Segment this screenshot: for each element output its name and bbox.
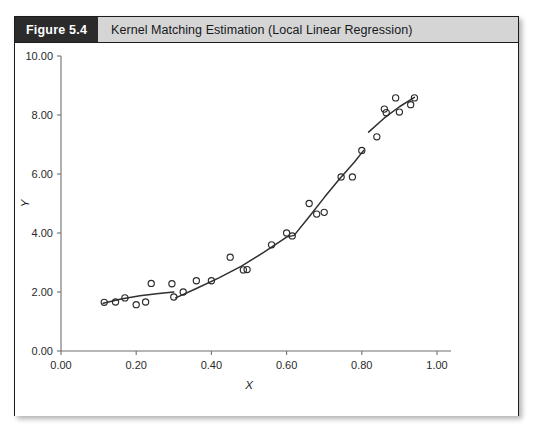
data-point <box>133 302 139 308</box>
x-axis-label: X <box>244 379 254 391</box>
data-point <box>193 278 199 284</box>
y-tick-label: 0.00 <box>32 345 53 357</box>
data-point <box>314 211 320 217</box>
figure-number-badge: Figure 5.4 <box>15 17 98 42</box>
data-point <box>227 254 233 260</box>
data-point <box>148 280 154 286</box>
data-points <box>101 95 417 308</box>
y-tick-label: 10.00 <box>25 50 53 62</box>
data-point <box>349 174 355 180</box>
x-tick-label: 1.00 <box>426 359 447 371</box>
data-point <box>244 266 250 272</box>
data-point <box>393 95 399 101</box>
y-tick-label: 2.00 <box>32 286 53 298</box>
data-point <box>396 109 402 115</box>
y-tick-label: 8.00 <box>32 109 53 121</box>
x-tick-label: 0.60 <box>276 359 297 371</box>
figure-card: Figure 5.4 Kernel Matching Estimation (L… <box>14 16 519 416</box>
plot-area: 0.002.004.006.008.0010.00 0.000.200.400.… <box>15 43 518 416</box>
figure-header: Figure 5.4 Kernel Matching Estimation (L… <box>15 17 518 43</box>
data-point <box>169 281 175 287</box>
regression-fit-lines <box>103 97 414 303</box>
x-tick-label: 0.00 <box>50 359 71 371</box>
x-tick-label: 0.40 <box>201 359 222 371</box>
x-tick-label: 0.20 <box>125 359 146 371</box>
fit-line-segment <box>176 150 364 298</box>
y-tick-label: 6.00 <box>32 168 53 180</box>
scatter-chart: 0.002.004.006.008.0010.00 0.000.200.400.… <box>15 43 518 415</box>
data-point <box>306 200 312 206</box>
x-tick-label: 0.80 <box>351 359 372 371</box>
data-point <box>143 299 149 305</box>
figure-caption: Kernel Matching Estimation (Local Linear… <box>98 17 412 42</box>
fit-line-segment <box>103 292 174 303</box>
y-tick-label: 4.00 <box>32 227 53 239</box>
y-axis-label: Y <box>19 198 31 207</box>
x-axis-ticks: 0.000.200.400.600.801.00 <box>50 351 447 371</box>
data-point <box>374 134 380 140</box>
fit-line-segment <box>369 97 415 132</box>
data-point <box>408 102 414 108</box>
screenshot-root: Figure 5.4 Kernel Matching Estimation (L… <box>0 0 553 446</box>
data-point <box>321 209 327 215</box>
